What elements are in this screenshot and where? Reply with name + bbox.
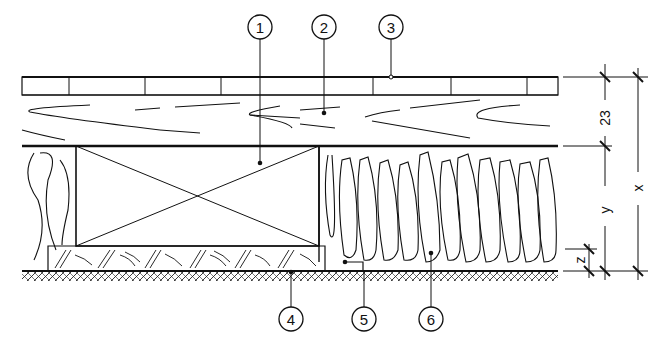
svg-text:3: 3 — [387, 19, 395, 36]
svg-text:5: 5 — [360, 311, 368, 328]
svg-text:23: 23 — [597, 110, 613, 126]
top-board-layer — [22, 77, 558, 95]
callout-2: 2 — [312, 15, 336, 115]
svg-text:z: z — [572, 257, 588, 264]
svg-text:y: y — [597, 207, 613, 214]
svg-text:2: 2 — [320, 19, 328, 36]
dimension-y: y — [597, 207, 613, 214]
dimension-x: x — [630, 185, 646, 192]
svg-text:x: x — [630, 185, 646, 192]
svg-text:6: 6 — [427, 311, 435, 328]
svg-text:1: 1 — [256, 19, 264, 36]
callout-6: 6 — [419, 251, 443, 331]
floor-section-drawing: 1 2 3 4 5 6 — [0, 0, 672, 348]
timber-layer — [22, 100, 550, 140]
dimension-23: 23 — [597, 110, 613, 126]
dimension-lines — [563, 64, 648, 280]
screed-layer — [48, 246, 325, 271]
dimension-z: z — [572, 257, 588, 264]
callout-3: 3 — [379, 15, 403, 79]
callout-1: 1 — [248, 15, 272, 165]
insulation-layer — [28, 146, 556, 262]
svg-text:4: 4 — [287, 311, 295, 328]
